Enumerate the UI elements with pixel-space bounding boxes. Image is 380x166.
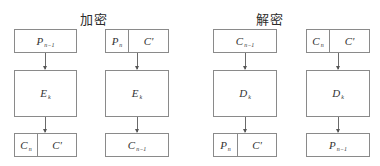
arrow-down-icon bbox=[245, 53, 246, 69]
arrow-down-icon bbox=[338, 53, 339, 69]
arrow-down-icon bbox=[245, 117, 246, 132]
enc-col1-cipher-block: Ek bbox=[14, 70, 77, 117]
dec-col2-input-block: Cn C' bbox=[306, 29, 370, 53]
symbol-c-n-minus-1: Cn−1 bbox=[236, 35, 254, 48]
output-cell-c-prime: C' bbox=[237, 134, 276, 156]
arrow-down-icon bbox=[45, 117, 46, 132]
enc-col2-output-block: Cn−1 bbox=[105, 133, 169, 157]
enc-col2-cipher-block: Ek bbox=[105, 70, 169, 117]
input-cell-cn: Cn bbox=[307, 30, 329, 52]
symbol-c-n-minus-1: Cn−1 bbox=[128, 139, 146, 152]
symbol-p-n-minus-1: Pn−1 bbox=[329, 139, 347, 152]
dec-col2-output-block: Pn−1 bbox=[306, 133, 370, 157]
arrow-down-icon bbox=[338, 117, 339, 132]
arrow-down-icon bbox=[137, 53, 138, 69]
decryption-title: 解密 bbox=[256, 9, 284, 28]
output-cell-cn: Cn bbox=[15, 134, 37, 156]
enc-col1-input-block: Pn−1 bbox=[14, 29, 77, 53]
arrow-down-icon bbox=[45, 53, 46, 69]
output-cell-pn: Pn bbox=[214, 134, 237, 156]
enc-col2-input-block: Pn C' bbox=[105, 29, 169, 53]
dec-col2-cipher-block: Dk bbox=[306, 70, 370, 117]
enc-col1-output-block: Cn C' bbox=[14, 133, 77, 157]
arrow-down-icon bbox=[137, 117, 138, 132]
dec-col1-output-block: Pn C' bbox=[213, 133, 277, 157]
dec-col1-cipher-block: Dk bbox=[213, 70, 277, 117]
output-cell-c-prime: C' bbox=[37, 134, 76, 156]
encryption-title: 加密 bbox=[80, 9, 108, 28]
input-cell-pn: Pn bbox=[106, 30, 128, 52]
symbol-p-n-minus-1: Pn−1 bbox=[37, 35, 55, 48]
symbol-d-k: Dk bbox=[239, 87, 251, 100]
input-cell-c-prime: C' bbox=[128, 30, 168, 52]
symbol-e-k: Ek bbox=[40, 87, 50, 100]
dec-col1-input-block: Cn−1 bbox=[213, 29, 277, 53]
input-cell-c-prime: C' bbox=[329, 30, 369, 52]
symbol-d-k: Dk bbox=[332, 87, 344, 100]
symbol-e-k: Ek bbox=[132, 87, 142, 100]
